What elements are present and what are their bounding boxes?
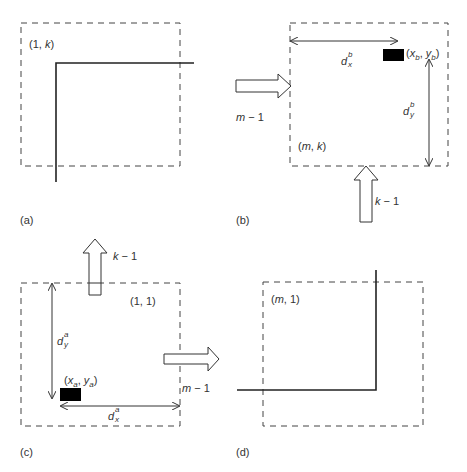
minus1-kb: − 1 — [381, 195, 400, 207]
up-hollow-arrow-c — [83, 239, 107, 295]
boundary-corner-d — [237, 270, 376, 390]
m-c: m — [182, 382, 191, 394]
cell-label-a-close: ) — [50, 38, 54, 50]
caption-b: (b) — [236, 215, 249, 226]
caption-c: (c) — [20, 447, 33, 458]
dx-label-c: dax — [108, 411, 114, 422]
point-b-y-sub: b — [431, 53, 435, 62]
dy-b-sup: b — [410, 101, 414, 109]
cell-label-c: (1, 1) — [130, 296, 156, 307]
cell-d-m: m — [275, 293, 284, 305]
figure-canvas: (1, k) (a) (xb, yb) dbx dby m − 1 (m, k)… — [0, 0, 467, 472]
caption-a: (a) — [20, 215, 33, 226]
dx-b-sub: x — [348, 61, 352, 69]
minus1-c: − 1 — [191, 382, 210, 394]
up-hollow-arrow-b — [354, 166, 378, 222]
right-hollow-arrow-b — [236, 74, 291, 98]
dx-label-b: dbx — [341, 56, 347, 67]
dx-c-d: d — [108, 410, 114, 422]
cell-label-b: (m, k) — [298, 141, 326, 152]
dy-b-sub: y — [410, 111, 414, 119]
point-label-b: (xb, yb) — [406, 48, 439, 59]
k-minus-1-label-b: k − 1 — [375, 196, 399, 207]
cell-label-a-open: (1, — [29, 38, 45, 50]
boundary-corner-a — [56, 63, 194, 182]
cell-boundary-c — [21, 283, 180, 426]
dx-c-sub: x — [115, 416, 119, 424]
dx-c-sup: a — [115, 406, 119, 414]
cell-b-k: k — [317, 140, 323, 152]
dy-c-d: d — [57, 335, 63, 347]
dy-c-sub: y — [64, 341, 68, 349]
dx-b-d: d — [341, 55, 347, 67]
dy-c-sup: a — [64, 331, 68, 339]
minus1-kc: − 1 — [119, 250, 138, 262]
point-c-y-sub: a — [89, 380, 93, 389]
right-hollow-arrow-c — [164, 347, 219, 371]
panel-d — [237, 270, 423, 426]
cell-label-a: (1, k) — [29, 39, 54, 50]
panel-c — [21, 239, 219, 426]
target-block-b — [383, 49, 404, 61]
caption-d: (d) — [236, 447, 249, 458]
dx-b-sup: b — [348, 51, 352, 59]
minus1-b: − 1 — [245, 111, 264, 123]
point-label-c: (xa, ya) — [64, 375, 97, 386]
cell-b-m: m — [302, 140, 311, 152]
dy-label-b: dby — [403, 106, 409, 117]
m-minus-1-label-b: m − 1 — [236, 112, 264, 123]
dy-label-c: day — [57, 336, 63, 347]
k-minus-1-label-c: k − 1 — [113, 251, 137, 262]
point-b-x-sub: b — [415, 53, 419, 62]
m-b: m — [236, 111, 245, 123]
cell-d-rest: , 1) — [284, 293, 300, 305]
cell-label-d: (m, 1) — [271, 294, 300, 305]
dy-b-d: d — [403, 105, 409, 117]
diagram-graphics — [0, 0, 467, 472]
m-minus-1-label-c: m − 1 — [182, 383, 210, 394]
point-c-x-sub: a — [73, 380, 77, 389]
target-block-c — [60, 388, 81, 401]
